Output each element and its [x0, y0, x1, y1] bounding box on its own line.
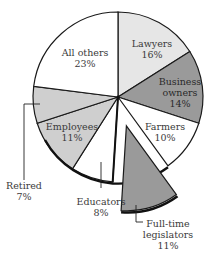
- label-retired: Retired 7%: [2, 180, 46, 202]
- label-name: All others: [57, 47, 113, 58]
- label-full-time-legislators: Full-time legislators 11%: [138, 218, 198, 251]
- label-pct: 8%: [72, 207, 130, 218]
- label-name: Farmers: [140, 121, 190, 132]
- label-pct: 10%: [140, 132, 190, 143]
- label-pct: 11%: [138, 240, 198, 251]
- label-lawyers: Lawyers 16%: [128, 38, 176, 60]
- label-all-others: All others 23%: [57, 47, 113, 69]
- label-pct: 23%: [57, 58, 113, 69]
- label-educators: Educators 8%: [72, 196, 130, 218]
- label-pct: 7%: [2, 191, 46, 202]
- label-employees: Employees 11%: [44, 121, 100, 143]
- label-name-line2: legislators: [138, 229, 198, 240]
- label-business-owners: Business owners 14%: [155, 76, 205, 109]
- label-name: Retired: [2, 180, 46, 191]
- label-pct: 16%: [128, 49, 176, 60]
- label-pct: 14%: [155, 98, 205, 109]
- label-name: Employees: [44, 121, 100, 132]
- label-name-line1: Business: [155, 76, 205, 87]
- label-farmers: Farmers 10%: [140, 121, 190, 143]
- pie-center: [116, 95, 119, 98]
- label-name: Educators: [72, 196, 130, 207]
- label-name-line2: owners: [155, 87, 205, 98]
- label-name-line1: Full-time: [138, 218, 198, 229]
- label-name: Lawyers: [128, 38, 176, 49]
- label-pct: 11%: [44, 132, 100, 143]
